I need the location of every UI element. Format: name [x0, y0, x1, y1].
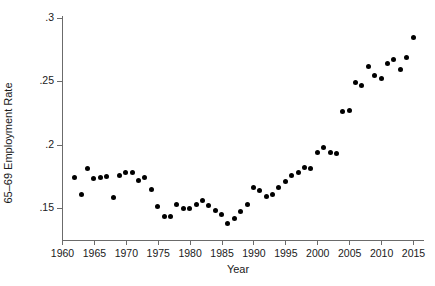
data-point: [328, 150, 333, 155]
data-point: [372, 73, 377, 78]
x-axis-tick: 2010: [381, 241, 382, 245]
x-axis-tick-label: 1970: [115, 247, 138, 260]
x-axis-tick-label: 1985: [210, 247, 233, 260]
x-axis-tick-label: 2000: [306, 247, 329, 260]
x-axis-tick: 1965: [94, 241, 95, 245]
data-point: [136, 178, 141, 183]
data-point: [117, 173, 122, 178]
data-point: [296, 170, 301, 175]
data-point: [315, 150, 320, 155]
data-point: [181, 206, 186, 211]
data-point: [366, 64, 371, 69]
x-axis-tick: 1985: [222, 241, 223, 245]
data-point: [98, 175, 103, 180]
x-axis-tick: 1970: [126, 241, 127, 245]
data-point: [270, 192, 275, 197]
data-point: [334, 151, 339, 156]
data-point: [264, 194, 269, 199]
data-point: [219, 212, 224, 217]
x-axis-tick-label: 2005: [338, 247, 361, 260]
data-point: [411, 35, 416, 40]
data-point: [79, 192, 84, 197]
data-point: [302, 165, 307, 170]
data-point: [283, 179, 288, 184]
data-point: [404, 55, 409, 60]
x-axis-tick: 2000: [317, 241, 318, 245]
x-axis-tick-label: 1990: [242, 247, 265, 260]
plot-area: [62, 14, 424, 240]
data-point: [200, 198, 205, 203]
x-axis-title: Year: [62, 262, 414, 276]
x-axis-tick: 2015: [413, 241, 414, 245]
data-point: [213, 208, 218, 213]
x-axis-tick: 1960: [62, 241, 63, 245]
data-point: [111, 195, 116, 200]
y-axis-title: 65–69 Employment Rate: [0, 0, 16, 286]
x-axis-line: [62, 240, 424, 241]
y-axis-tick-label: .15: [39, 201, 54, 214]
x-axis-tick-label: 2010: [370, 247, 393, 260]
x-axis-tick: 1980: [190, 241, 191, 245]
data-point: [187, 206, 192, 211]
x-axis-tick: 1975: [158, 241, 159, 245]
data-point: [321, 145, 326, 150]
data-point: [245, 202, 250, 207]
x-axis-tick-label: 1975: [147, 247, 170, 260]
y-axis-tick-label: .2: [45, 138, 54, 151]
x-axis-tick-label: 1965: [83, 247, 106, 260]
x-axis-tick-label: 1995: [274, 247, 297, 260]
y-axis-tick-label: .3: [45, 11, 54, 24]
data-point: [130, 170, 135, 175]
x-axis-tick: 1990: [253, 241, 254, 245]
x-axis-tick-label: 2015: [402, 247, 425, 260]
data-point: [104, 174, 109, 179]
data-point: [289, 173, 294, 178]
y-axis-tick-label: .25: [39, 74, 54, 87]
data-point: [347, 108, 352, 113]
x-axis-tick-label: 1960: [51, 247, 74, 260]
data-point: [194, 202, 199, 207]
data-point: [232, 216, 237, 221]
data-point: [149, 187, 154, 192]
x-axis-tick: 1995: [285, 241, 286, 245]
data-point: [379, 76, 384, 81]
scatter-chart-figure: 65–69 Employment Rate Year .15.2.25.3 19…: [0, 0, 435, 286]
x-axis-tick: 2005: [349, 241, 350, 245]
x-axis-tick-label: 1980: [178, 247, 201, 260]
